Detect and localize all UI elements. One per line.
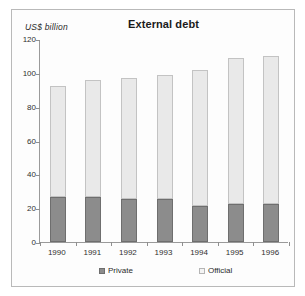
x-axis-tick [182, 242, 183, 246]
x-axis-tick-label: 1993 [147, 248, 181, 258]
y-axis-tick [36, 142, 40, 143]
y-axis-tick [36, 40, 40, 41]
plot-area [39, 40, 288, 243]
legend-swatch-private-icon [99, 268, 105, 274]
y-axis-tick [36, 74, 40, 75]
x-axis-tick [76, 242, 77, 246]
x-axis-tick [111, 242, 112, 246]
y-axis-tick [36, 175, 40, 176]
bar-segment-official[interactable] [228, 58, 244, 204]
legend-label: Private [108, 266, 133, 276]
bar-segment-official[interactable] [192, 70, 208, 205]
bar-segment-official[interactable] [50, 86, 66, 197]
y-axis-tick-label: 40 [27, 171, 36, 179]
y-axis-title: US$ billion [25, 22, 68, 32]
bar-segment-private[interactable] [192, 206, 208, 242]
chart-figure: External debt US$ billion 02040608010012… [0, 0, 305, 296]
x-axis-tick [40, 242, 41, 246]
chart-legend: PrivateOfficial [39, 266, 288, 278]
x-axis-tick [218, 242, 219, 246]
y-axis-tick [36, 108, 40, 109]
bar-segment-official[interactable] [85, 80, 101, 198]
y-axis-tick-label: 100 [23, 70, 36, 78]
bar-segment-official[interactable] [121, 78, 137, 199]
bar-segment-private[interactable] [228, 204, 244, 242]
x-axis-tick [289, 242, 290, 246]
y-axis-tick [36, 209, 40, 210]
bar-segment-official[interactable] [157, 75, 173, 199]
y-axis-tick-label: 120 [23, 36, 36, 44]
y-axis-tick-label: 20 [27, 205, 36, 213]
y-axis-tick-label: 60 [27, 138, 36, 146]
x-axis-tick-label: 1995 [218, 248, 252, 258]
legend-label: Official [208, 266, 232, 276]
x-axis-tick [147, 242, 148, 246]
chart-title: External debt [39, 18, 288, 30]
x-axis-tick-label: 1990 [40, 248, 74, 258]
x-axis-tick-label: 1994 [182, 248, 216, 258]
x-axis-tick-label: 1992 [111, 248, 145, 258]
bar-segment-private[interactable] [85, 197, 101, 242]
y-axis-tick-labels: 020406080100120 [16, 40, 36, 243]
bar-segment-private[interactable] [121, 199, 137, 242]
bar-segment-official[interactable] [263, 56, 279, 204]
legend-item-private[interactable]: Private [99, 266, 133, 276]
bar-segment-private[interactable] [50, 197, 66, 242]
legend-swatch-official-icon [199, 268, 205, 274]
bar-segment-private[interactable] [263, 204, 279, 242]
x-axis-tick-label: 1996 [253, 248, 287, 258]
x-axis-tick-label: 1991 [75, 248, 109, 258]
legend-item-official[interactable]: Official [199, 266, 232, 276]
y-axis-tick-label: 80 [27, 104, 36, 112]
bar-segment-private[interactable] [157, 199, 173, 242]
x-axis-tick [253, 242, 254, 246]
x-axis-tick-labels: 1990199119921993199419951996 [39, 248, 288, 260]
